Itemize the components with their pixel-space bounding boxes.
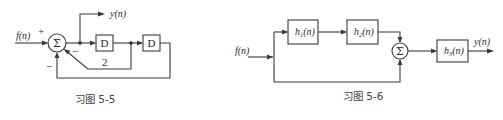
arrow-icon: [42, 41, 48, 46]
input-label: f(n): [16, 30, 31, 42]
arrow-icon: [398, 59, 403, 65]
sigma-symbol: Σ: [53, 37, 61, 50]
figure-5-5: f(n) + Σ y(n) D D − 2 − 习图 5-5: [15, 8, 170, 105]
minus-sign-gain: −: [72, 45, 78, 57]
arrow-icon: [341, 30, 347, 35]
arrow-icon: [282, 30, 288, 35]
caption-5-6: 习图 5-6: [343, 90, 384, 102]
input-label: f(n): [235, 45, 250, 57]
sigma-symbol: Σ: [396, 45, 404, 58]
h2-sum-line: [378, 32, 400, 42]
bypass-line: [274, 60, 400, 82]
delay-2-label: D: [148, 37, 156, 49]
h1-label: h1(n): [295, 26, 316, 38]
output-label: y(n): [473, 36, 491, 48]
h2-label: h2(n): [354, 26, 375, 38]
arrow-icon: [398, 37, 403, 43]
minus-sign-outer: −: [46, 60, 52, 72]
arrow-icon: [267, 55, 273, 60]
arrow-icon: [55, 52, 60, 58]
arrow-icon: [90, 41, 96, 46]
arrow-icon: [98, 12, 105, 17]
h3-label: h3(n): [444, 45, 465, 57]
arrow-icon: [431, 49, 437, 54]
arrow-icon: [487, 49, 494, 54]
gain-label: 2: [102, 56, 108, 68]
block-diagrams: f(n) + Σ y(n) D D − 2 − 习图 5-5: [0, 0, 503, 120]
delay-1-label: D: [101, 37, 109, 49]
output-label: y(n): [109, 8, 127, 20]
caption-5-5: 习图 5-5: [75, 93, 116, 105]
arrow-icon: [137, 41, 143, 46]
figure-5-6: f(n) h1(n) h2(n) Σ h3(n): [235, 20, 494, 102]
plus-sign: +: [38, 25, 44, 37]
